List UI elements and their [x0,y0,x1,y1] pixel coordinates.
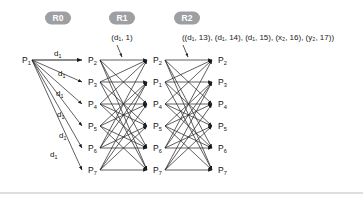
round-badge-label-r2: R2 [182,13,193,23]
node-r1-target-4: P6 [153,143,162,154]
payload-pointer-r2 [183,45,188,57]
edge-r2-1-0 [165,60,212,82]
edge-label-r0-1: d1 [58,69,65,79]
edge-r2-4-1 [165,82,212,148]
payload-pointer-r1 [117,45,122,57]
round-badge-label-r1: R1 [117,13,128,23]
node-r1-target-1: P1 [153,77,162,88]
node-r1-target-3: P5 [153,121,162,132]
node-r1-target-0: P2 [153,55,162,66]
diagram-canvas: R0R1R2 (d₁, 1)((d₁, 13), (d₁, 14), (d₁, … [0,0,363,204]
node-r2-target-0: P2 [218,55,227,66]
edge-r0-1 [32,60,82,82]
edge-r2-5-2 [165,104,212,170]
edge-label-r0-3: d1 [57,110,64,120]
r1-edges [100,60,147,170]
node-r0-source-p1: P1 [22,55,31,66]
node-r0-target-0: P2 [88,55,97,66]
node-r2-target-2: P4 [218,99,227,110]
node-r0-target-4: P6 [88,143,97,154]
node-r2-target-3: P5 [218,121,227,132]
node-r1-target-5: P7 [153,165,162,176]
node-r0-target-1: P3 [88,77,97,88]
node-r2-target-1: P3 [218,77,227,88]
edge-r1-5-2 [100,104,147,170]
round-badges: R0R1R2 [45,12,200,25]
node-r2-target-5: P7 [218,165,227,176]
edge-label-r0-2: d1 [56,89,63,99]
node-r2-target-4: P6 [218,143,227,154]
round-payload-r1: (d₁, 1) [111,33,133,42]
node-r0-target-5: P7 [88,165,97,176]
edge-label-r0-5: d1 [50,150,57,160]
edge-label-r0-0: d1 [54,49,61,59]
node-r0-target-3: P5 [88,121,97,132]
edge-r0-4 [32,60,82,148]
broadcast-rounds-figure: R0R1R2 (d₁, 1)((d₁, 13), (d₁, 14), (d₁, … [0,0,363,204]
round-payload-labels: (d₁, 1)((d₁, 13), (d₁, 14), (d₁, 15), (x… [111,33,334,42]
edge-r1-4-1 [100,82,147,148]
node-r1-target-2: P4 [153,99,162,110]
node-r0-target-2: P4 [88,99,97,110]
round-payload-r2: ((d₁, 13), (d₁, 14), (d₁, 15), (x₂, 16),… [182,33,334,42]
edge-r1-1-0 [100,60,147,82]
round-badge-label-r0: R0 [53,13,64,23]
r2-edges [165,60,212,170]
